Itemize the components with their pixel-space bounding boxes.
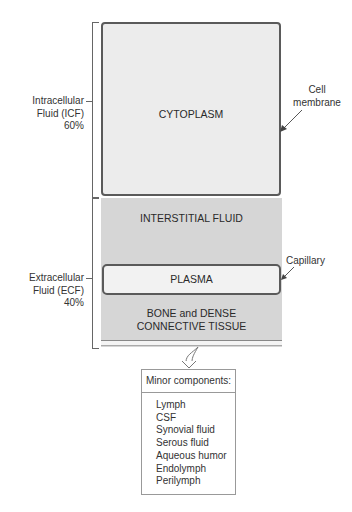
cytoplasm-label: CYTOPLASM [103,108,279,121]
capillary-pointer-icon [278,265,298,283]
cell-membrane-label: Cell membrane [282,84,352,109]
list-item: Aqueous humor [156,450,235,463]
minor-components-list: Lymph CSF Synovial fluid Serous fluid Aq… [142,393,235,488]
list-item: Synovial fluid [156,424,235,437]
icf-label: Intracellular Fluid (ICF) 60% [0,95,84,133]
list-item: CSF [156,412,235,425]
minor-components-title: Minor components: [142,370,235,393]
list-item: Endolymph [156,463,235,476]
interstitial-fluid-label: INTERSTITIAL FLUID [101,212,282,225]
ecf-bracket [92,198,99,349]
plasma-label: PLASMA [104,273,279,286]
icf-bracket [92,22,99,198]
list-item: Perilymph [156,475,235,488]
cell-membrane-pointer-icon [276,108,306,134]
minor-components-arrow-icon [172,345,212,371]
plasma-compartment: PLASMA [102,264,281,295]
ecf-label: Extracellular Fluid (ECF) 40% [0,272,84,310]
bone-connective-tissue-label: BONE and DENSE CONNECTIVE TISSUE [101,307,282,333]
icf-bracket-tick [86,101,92,102]
list-item: Lymph [156,399,235,412]
list-item: Serous fluid [156,437,235,450]
ecf-bracket-tick [86,278,92,279]
minor-components-box: Minor components: Lymph CSF Synovial flu… [141,369,236,495]
cytoplasm-compartment: CYTOPLASM [101,22,281,196]
